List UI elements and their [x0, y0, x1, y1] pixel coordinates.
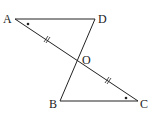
- segment-AC: [15, 19, 138, 101]
- label-O: O: [82, 53, 91, 67]
- label-C: C: [140, 97, 148, 111]
- label-A: A: [3, 12, 12, 26]
- label-B: B: [49, 97, 57, 111]
- angle-mark-A: [27, 23, 30, 26]
- geometry-diagram: A D O B C: [0, 0, 152, 115]
- label-D: D: [98, 12, 107, 26]
- angle-mark-C: [125, 97, 128, 100]
